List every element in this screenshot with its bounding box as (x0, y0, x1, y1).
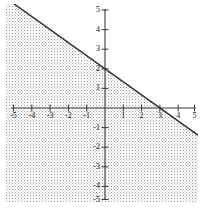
x-tick-label--5: -5 (10, 112, 17, 120)
y-tick-label--1: -1 (93, 124, 100, 132)
x-tick-label--4: -4 (28, 112, 35, 120)
y-tick-label-3: 3 (96, 45, 100, 53)
x-tick-label-3: 3 (158, 112, 162, 120)
coordinate-plane-graph: -5 -4 -3 -2 -1 1 2 3 4 5 5 4 3 2 1 -1 -2… (0, 0, 204, 211)
x-tick-label-1: 1 (121, 112, 125, 120)
x-tick-label-4: 4 (176, 112, 180, 120)
y-tick-label-1: 1 (96, 84, 100, 92)
y-tick-label-2: 2 (96, 65, 100, 73)
x-tick-label-2: 2 (140, 112, 144, 120)
y-tick-label--4: -4 (93, 182, 100, 190)
y-tick-label--5: -5 (93, 196, 100, 204)
plot-area (0, 0, 204, 211)
shaded-region (6, 0, 198, 202)
x-tick-label--2: -2 (65, 112, 72, 120)
y-tick-label-5: 5 (96, 6, 100, 14)
y-tick-label-4: 4 (96, 26, 100, 34)
y-tick-label--3: -3 (93, 163, 100, 171)
x-tick-label-5: 5 (193, 112, 197, 120)
y-tick-label--2: -2 (93, 143, 100, 151)
x-tick-label--1: -1 (83, 112, 90, 120)
x-tick-label--3: -3 (47, 112, 54, 120)
